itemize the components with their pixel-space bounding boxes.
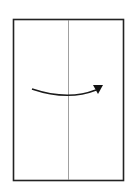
fold-diagram [0,0,134,186]
